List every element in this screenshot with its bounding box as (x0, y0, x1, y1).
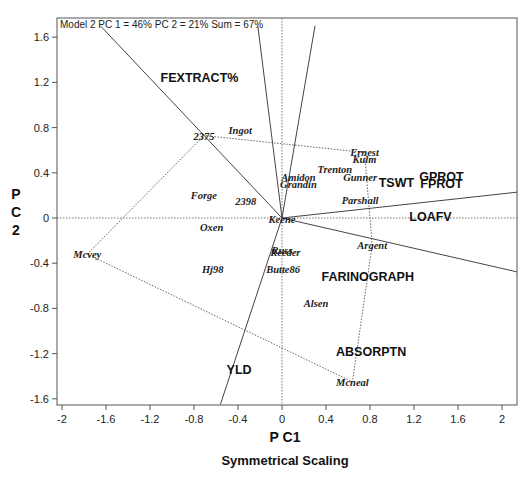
genotype-label: Alsen (303, 298, 329, 309)
chart-subtitle: Symmetrical Scaling (221, 453, 348, 468)
genotype-label: Mcneal (335, 377, 369, 388)
y-tick-label: -0.4 (30, 257, 49, 269)
x-axis-title: P C1 (270, 429, 301, 445)
genotype-label: Kulm (352, 154, 377, 165)
genotype-label: Keene (268, 214, 296, 225)
x-tick-label: -2 (57, 413, 67, 425)
y-tick-label: 1.6 (34, 31, 49, 43)
trait-label: FEXTRACT% (161, 71, 239, 85)
y-tick-label: 0.4 (34, 167, 49, 179)
trait-label: FPROT (420, 177, 463, 191)
x-tick-label: -0.4 (229, 413, 248, 425)
x-tick-label: 0 (279, 413, 285, 425)
y-axis-title-p: P (11, 186, 20, 202)
trait-label: ABSORPTN (336, 345, 406, 359)
annotation-text: Model 2 PC 1 = 46% PC 2 = 21% Sum = 67% (60, 19, 263, 30)
genotype-label: Mcvey (72, 249, 101, 260)
genotype-label: Reeder (269, 247, 301, 258)
genotype-label: Argent (356, 240, 388, 251)
x-tick-label: -0.8 (185, 413, 204, 425)
genotype-label: 2398 (234, 196, 257, 207)
x-tick-label: 1.6 (450, 413, 465, 425)
x-tick-label: -1.6 (97, 413, 116, 425)
genotype-label: Grandin (280, 179, 317, 190)
y-tick-label: -1.2 (30, 348, 49, 360)
genotype-label: Butte86 (265, 264, 301, 275)
y-tick-label: 1.2 (34, 76, 49, 88)
y-axis-title-2: 2 (12, 222, 20, 238)
x-tick-label: 1.2 (406, 413, 421, 425)
x-tick-label: 0.4 (318, 413, 333, 425)
y-tick-label: -1.6 (30, 393, 49, 405)
y-axis: 1.61.20.80.40-0.4-0.8-1.2-1.6 (30, 31, 57, 405)
genotype-label: 2375 (192, 131, 214, 142)
x-tick-label: 2 (499, 413, 505, 425)
genotype-label: Hj98 (201, 264, 224, 275)
genotype-label: Gunner (343, 172, 378, 183)
genotype-label: Ingot (228, 125, 253, 136)
x-tick-label: 0.8 (362, 413, 377, 425)
genotype-label: Oxen (200, 222, 223, 233)
trait-label: YLD (227, 363, 252, 377)
y-tick-label: 0 (43, 212, 49, 224)
trait-label: TSWT (379, 176, 415, 190)
genotype-label: Forge (190, 190, 218, 201)
x-tick-label: -1.2 (141, 413, 160, 425)
biplot-chart: 2375IngotErnestKulmTrentonGunnerAmidonGr… (0, 0, 529, 480)
genotype-label: Parshall (342, 195, 379, 206)
x-axis: -2-1.6-1.2-0.8-0.400.40.81.21.62 (57, 405, 505, 425)
y-tick-label: -0.8 (30, 302, 49, 314)
trait-label: LOAFV (409, 210, 452, 224)
y-tick-label: 0.8 (34, 122, 49, 134)
y-axis-title-c: C (11, 204, 21, 220)
trait-label: FARINOGRAPH (322, 270, 414, 284)
